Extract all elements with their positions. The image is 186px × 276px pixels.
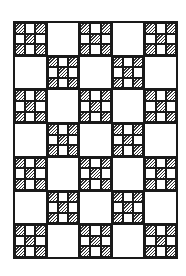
plain-square [35,236,45,247]
hatched-square [145,179,155,190]
hatched-square [156,101,166,112]
plain-square [35,168,45,179]
plain-square [68,135,78,146]
hatched-square [90,34,100,45]
hatched-square [15,90,25,101]
plain-square [156,246,166,257]
hatched-square [80,90,90,101]
nine-patch-block [144,89,177,123]
nine-patch-block [47,191,80,225]
hatched-square [15,112,25,123]
hatched-square [35,23,45,34]
hatched-square [15,44,25,55]
hatched-square [133,57,143,68]
plain-square [90,225,100,236]
plain-block [144,191,177,225]
plain-block [112,22,145,56]
hatched-square [166,225,176,236]
nine-patch-block [112,191,145,225]
nine-patch-block [79,157,112,191]
hatched-square [15,246,25,257]
hatched-square [101,112,111,123]
nine-patch-block [47,123,80,157]
plain-square [15,236,25,247]
plain-block [144,56,177,90]
hatched-square [15,158,25,169]
hatched-square [35,246,45,257]
hatched-square [15,225,25,236]
plain-square [145,236,155,247]
hatched-square [166,246,176,257]
plain-square [101,34,111,45]
hatched-square [58,135,68,146]
hatched-square [80,112,90,123]
plain-square [90,44,100,55]
hatched-square [101,90,111,101]
hatched-square [48,145,58,156]
hatched-square [113,145,123,156]
hatched-square [166,90,176,101]
hatched-square [68,192,78,203]
hatched-square [68,124,78,135]
hatched-square [80,44,90,55]
quilt-pattern [13,21,178,259]
hatched-square [113,124,123,135]
nine-patch-block [14,89,47,123]
hatched-square [35,112,45,123]
hatched-square [133,213,143,224]
plain-square [25,225,35,236]
hatched-square [68,78,78,89]
hatched-square [15,179,25,190]
hatched-square [156,168,166,179]
hatched-square [80,158,90,169]
plain-block [79,191,112,225]
hatched-square [156,236,166,247]
plain-square [133,202,143,213]
plain-square [58,213,68,224]
plain-square [145,168,155,179]
hatched-square [58,202,68,213]
plain-square [156,158,166,169]
plain-block [14,191,47,225]
hatched-square [90,101,100,112]
hatched-square [145,90,155,101]
plain-square [123,57,133,68]
plain-square [166,34,176,45]
hatched-square [58,67,68,78]
hatched-square [48,78,58,89]
plain-square [68,202,78,213]
hatched-square [90,168,100,179]
plain-square [25,112,35,123]
plain-square [113,67,123,78]
hatched-square [156,34,166,45]
plain-square [90,23,100,34]
hatched-square [166,158,176,169]
plain-square [166,168,176,179]
hatched-square [145,225,155,236]
plain-square [123,213,133,224]
hatched-square [90,236,100,247]
hatched-square [48,213,58,224]
plain-square [101,101,111,112]
plain-square [25,179,35,190]
plain-square [113,135,123,146]
plain-square [48,135,58,146]
plain-square [58,145,68,156]
plain-square [156,112,166,123]
hatched-square [48,57,58,68]
hatched-square [133,145,143,156]
nine-patch-block [14,157,47,191]
plain-block [79,56,112,90]
plain-block [47,157,80,191]
hatched-square [35,90,45,101]
hatched-square [25,34,35,45]
hatched-square [80,225,90,236]
nine-patch-block [14,224,47,258]
hatched-square [166,23,176,34]
plain-block [79,123,112,157]
hatched-square [101,179,111,190]
hatched-square [68,57,78,68]
plain-square [25,23,35,34]
hatched-square [113,192,123,203]
hatched-square [166,112,176,123]
